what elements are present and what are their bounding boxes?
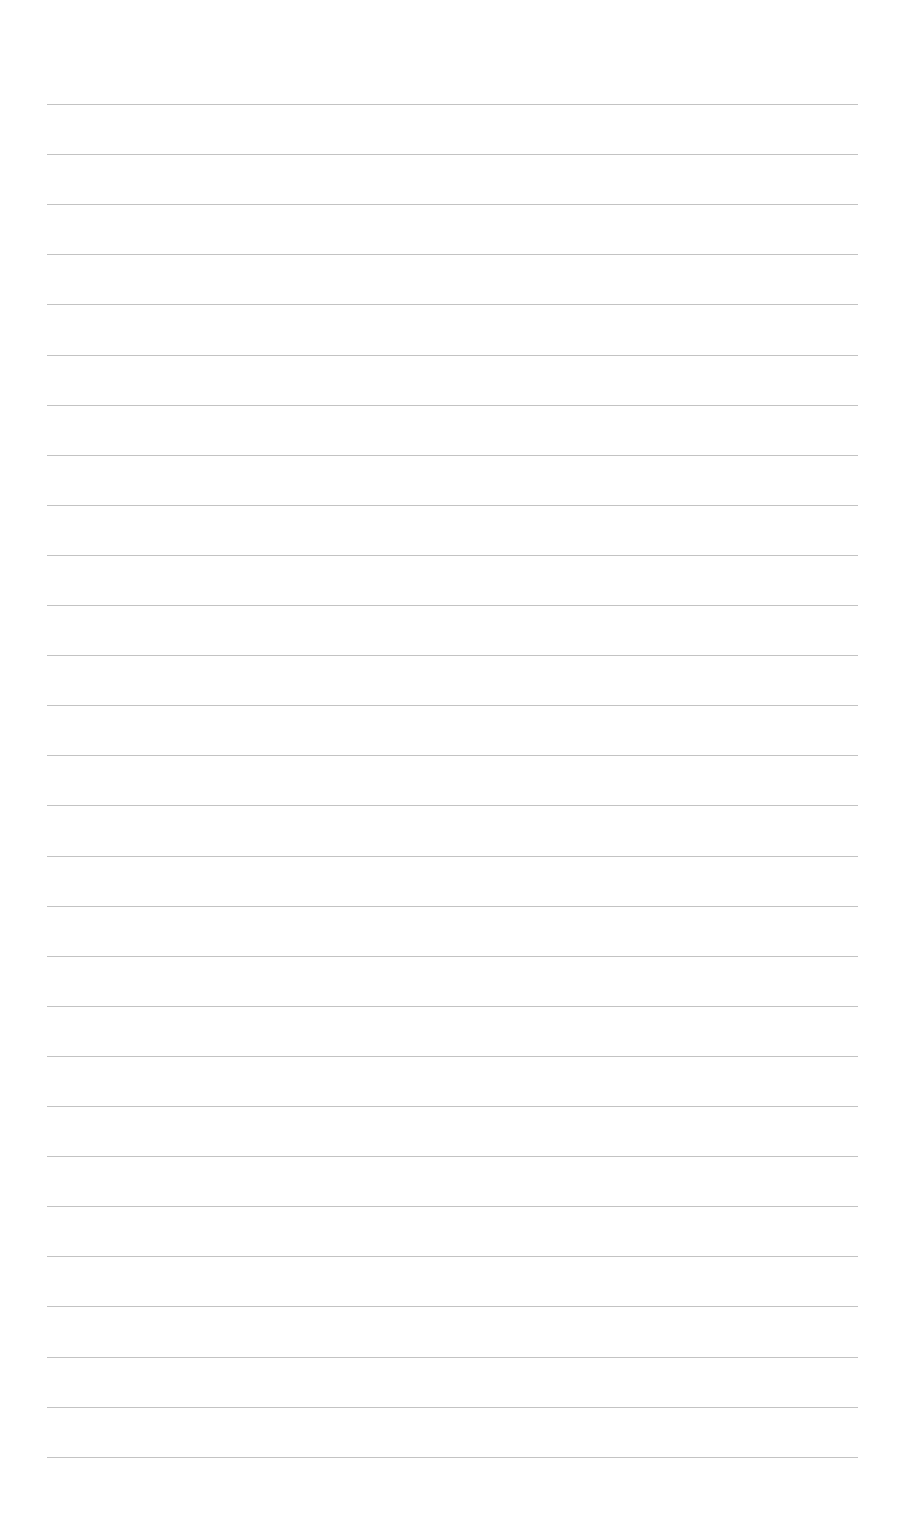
- ruled-line: [47, 1006, 858, 1007]
- ruled-line: [47, 304, 858, 305]
- ruled-line: [47, 505, 858, 506]
- ruled-line: [47, 1357, 858, 1358]
- ruled-line: [47, 1306, 858, 1307]
- ruled-line: [47, 1407, 858, 1408]
- ruled-page: [0, 0, 902, 1523]
- ruled-line: [47, 1056, 858, 1057]
- ruled-line: [47, 655, 858, 656]
- ruled-line: [47, 705, 858, 706]
- ruled-line: [47, 1156, 858, 1157]
- ruled-line: [47, 605, 858, 606]
- ruled-line: [47, 805, 858, 806]
- ruled-line: [47, 906, 858, 907]
- ruled-line: [47, 956, 858, 957]
- ruled-line: [47, 1206, 858, 1207]
- ruled-line: [47, 355, 858, 356]
- ruled-line: [47, 1106, 858, 1107]
- ruled-line: [47, 104, 858, 105]
- ruled-line: [47, 455, 858, 456]
- ruled-line: [47, 755, 858, 756]
- ruled-line: [47, 405, 858, 406]
- ruled-line: [47, 154, 858, 155]
- ruled-line: [47, 204, 858, 205]
- ruled-line: [47, 1457, 858, 1458]
- ruled-line: [47, 856, 858, 857]
- ruled-line: [47, 1256, 858, 1257]
- ruled-line: [47, 254, 858, 255]
- ruled-line: [47, 555, 858, 556]
